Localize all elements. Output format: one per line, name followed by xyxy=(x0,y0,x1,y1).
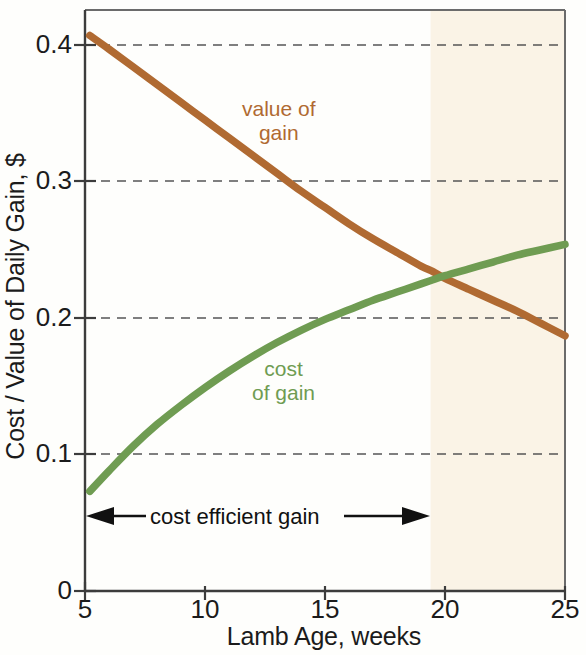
chart-figure: Cost / Value of Daily Gain, $ Lamb Age, … xyxy=(0,0,586,655)
plot-area xyxy=(0,0,586,655)
annotation-arrow-right-head xyxy=(402,507,430,525)
annotation-arrow xyxy=(86,507,430,525)
annotation-arrow-left-head xyxy=(86,507,114,525)
